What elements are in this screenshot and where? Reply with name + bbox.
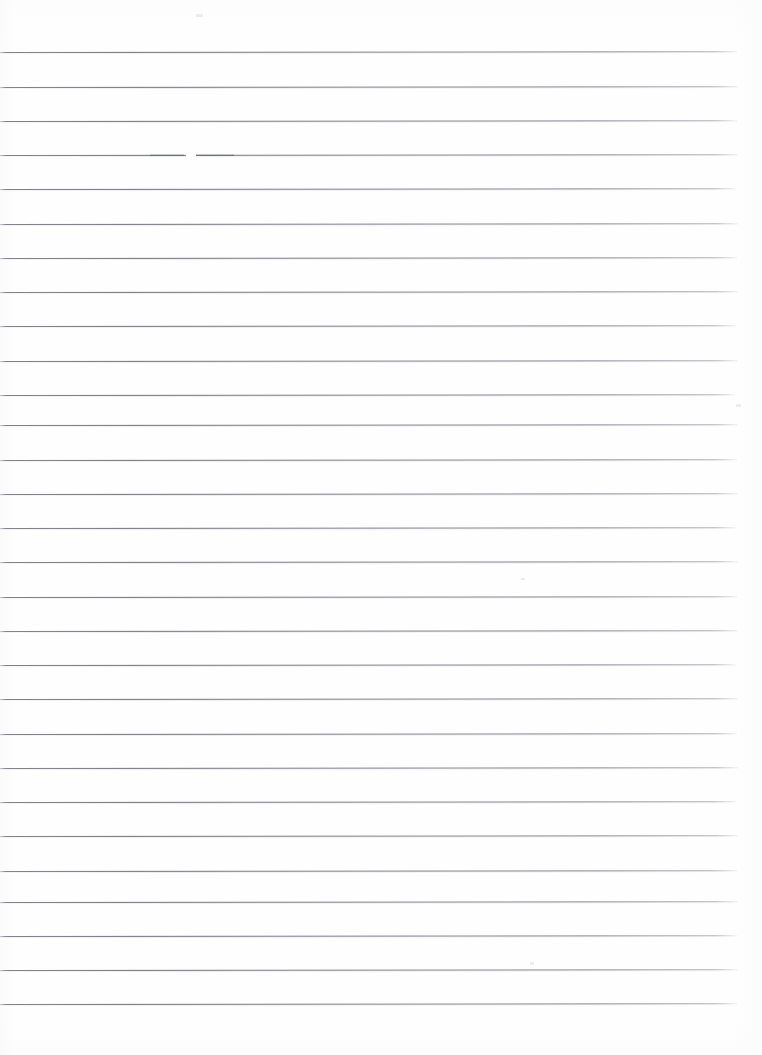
scanned-page [0, 0, 762, 1055]
handwriting-area[interactable] [0, 52, 738, 1004]
